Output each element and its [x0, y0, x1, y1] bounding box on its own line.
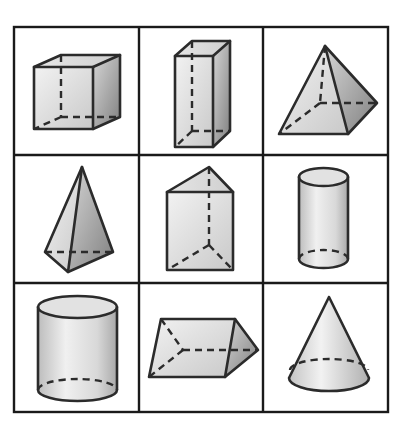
solids-grid-figure: [0, 0, 404, 430]
cone-shape: [289, 297, 369, 391]
triangular-prism-lying-shape: [149, 319, 258, 377]
triangular-pyramid-shape: [45, 167, 113, 272]
rectangular-prism-shape: [175, 41, 230, 147]
triangular-prism-upright-shape: [167, 167, 233, 270]
cylinder-narrow-shape: [299, 168, 348, 268]
square-pyramid-shape: [279, 46, 377, 134]
cube-shape: [34, 55, 120, 129]
cylinder-wide-shape: [38, 296, 117, 401]
